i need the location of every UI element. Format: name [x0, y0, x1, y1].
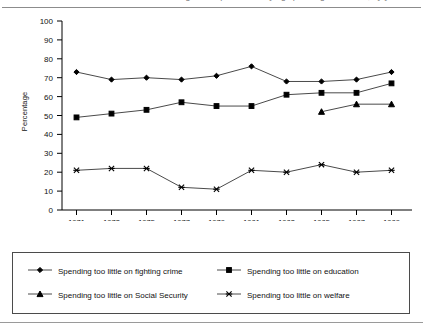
cross-marker-icon: [143, 166, 149, 171]
y-tick-label: 20: [44, 168, 53, 177]
legend-item[interactable]: Spending too little on fighting crime: [27, 262, 216, 280]
cross-marker-icon: [248, 168, 254, 173]
triangle-marker-icon: [27, 286, 53, 304]
y-tick-label: 60: [44, 93, 53, 102]
x-tick-label: 1977: [173, 218, 190, 221]
x-axis-ticks: 1971197319751977197919811983198519871989: [68, 210, 400, 221]
square-marker-icon: [216, 262, 242, 280]
square-marker-icon: [284, 92, 289, 97]
diamond-marker-icon: [249, 64, 254, 69]
data-series-layer: [73, 64, 394, 192]
diamond-marker-icon: [389, 69, 394, 74]
square-marker-icon: [109, 111, 114, 116]
series-line: [77, 83, 392, 117]
y-tick-label: 0: [49, 206, 54, 215]
y-tick-label: 90: [44, 36, 53, 45]
y-tick-label: 100: [40, 17, 54, 26]
square-marker-icon: [74, 115, 79, 120]
diamond-marker-icon: [74, 69, 79, 74]
legend-label: Spending too little on fighting crime: [58, 267, 183, 276]
cross-marker-icon: [318, 162, 324, 167]
bottom-divider: [0, 322, 423, 323]
diamond-marker-icon: [319, 79, 324, 84]
diamond-marker-icon: [144, 75, 149, 80]
legend-item[interactable]: Spending too little on welfare: [216, 286, 405, 304]
x-tick-label: 1975: [138, 218, 155, 221]
legend-item[interactable]: Spending too little on Social Security: [27, 286, 216, 304]
series-line: [77, 165, 392, 190]
legend-label: Spending too little on Social Security: [58, 291, 188, 300]
cross-marker-icon: [178, 185, 184, 190]
y-tick-label: 10: [44, 187, 53, 196]
chart-title: Percentage of respondents saying spendin…: [150, 0, 403, 1]
y-tick-label: 70: [44, 74, 53, 83]
diamond-marker-icon: [214, 73, 219, 78]
cross-marker-icon: [108, 166, 114, 171]
cross-marker-icon: [73, 168, 79, 173]
legend-item[interactable]: Spending too little on education: [216, 262, 405, 280]
series-line: [77, 66, 392, 81]
diamond-marker-icon: [27, 262, 53, 280]
y-axis-ticks: 0102030405060708090100: [40, 17, 62, 215]
chart-legend: Spending too little on fighting crimeSpe…: [12, 252, 410, 314]
square-marker-icon: [144, 107, 149, 112]
square-marker-icon: [249, 104, 254, 109]
x-tick-label: 1979: [208, 218, 225, 221]
cross-marker-icon: [353, 170, 359, 175]
cross-marker-icon: [283, 170, 289, 175]
x-tick-label: 1985: [313, 218, 330, 221]
plot-area: Percentage 0102030405060708090100 197119…: [0, 9, 423, 221]
series-3: [319, 101, 395, 114]
cross-marker-icon: [213, 187, 219, 192]
diamond-marker-icon: [179, 77, 184, 82]
y-tick-label: 40: [44, 130, 53, 139]
diamond-marker-icon: [354, 77, 359, 82]
series-1: [74, 64, 394, 84]
y-tick-label: 30: [44, 149, 53, 158]
x-tick-label: 1987: [348, 218, 365, 221]
x-tick-label: 1973: [103, 218, 120, 221]
square-marker-icon: [214, 104, 219, 109]
legend-label: Spending too little on welfare: [247, 291, 350, 300]
x-tick-label: 1981: [243, 218, 260, 221]
line-chart-svg: 0102030405060708090100 19711973197519771…: [0, 9, 423, 221]
square-marker-icon: [354, 90, 359, 95]
series-2: [74, 81, 394, 120]
top-divider: [2, 7, 421, 8]
cross-marker-icon: [216, 286, 242, 304]
x-tick-label: 1983: [278, 218, 295, 221]
square-marker-icon: [179, 100, 184, 105]
series-4: [73, 162, 394, 192]
cross-marker-icon: [388, 168, 394, 173]
diamond-marker-icon: [284, 79, 289, 84]
chart-page: Percentage of respondents saying spendin…: [0, 0, 423, 333]
diamond-marker-icon: [109, 77, 114, 82]
square-marker-icon: [319, 90, 324, 95]
x-tick-label: 1971: [68, 218, 85, 221]
y-tick-label: 50: [44, 112, 53, 121]
y-tick-label: 80: [44, 55, 53, 64]
x-tick-label: 1989: [383, 218, 400, 221]
legend-label: Spending too little on education: [247, 267, 359, 276]
square-marker-icon: [389, 81, 394, 86]
